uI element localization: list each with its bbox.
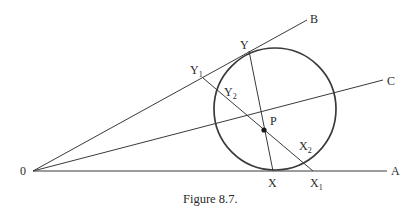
label-P: P <box>270 114 277 128</box>
figure-8-7-diagram: 0 A B C P Y X Y1 Y2 X2 X1 Figure 8.7. <box>0 0 418 212</box>
inscribed-circle <box>214 48 336 170</box>
label-Y: Y <box>240 38 249 52</box>
label-X1: X1 <box>310 176 323 192</box>
label-B: B <box>310 12 318 26</box>
ray-OC <box>33 80 383 171</box>
ray-OB <box>33 20 307 171</box>
label-O: 0 <box>20 164 26 178</box>
label-Y1: Y1 <box>190 63 203 79</box>
label-C: C <box>387 74 395 88</box>
segment-X1Y1 <box>203 78 313 171</box>
figure-caption: Figure 8.7. <box>183 192 238 206</box>
label-A: A <box>391 164 400 178</box>
label-Y2: Y2 <box>224 85 237 101</box>
label-X: X <box>268 176 277 190</box>
label-X2: X2 <box>299 139 312 155</box>
point-P-dot <box>261 127 266 132</box>
segment-XY <box>249 51 273 171</box>
